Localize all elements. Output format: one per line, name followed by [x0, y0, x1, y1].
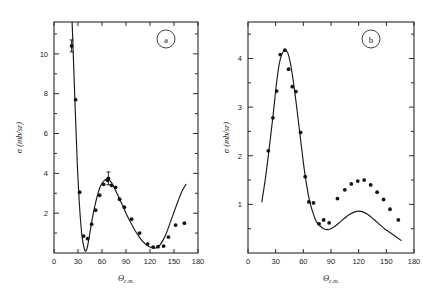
y-tick-label: 2 [238, 152, 242, 161]
x-tick-label: 90 [327, 257, 335, 266]
y-axis-label-b: σ (mb/sr) [221, 122, 231, 154]
data-point [303, 175, 307, 179]
data-point [138, 231, 142, 235]
data-point [369, 183, 373, 187]
x-tick-label: 60 [299, 257, 307, 266]
panel-b-label: b [369, 35, 374, 45]
y-tick-label: 8 [44, 89, 48, 98]
data-point [307, 200, 311, 204]
data-point [322, 218, 326, 222]
data-point [294, 90, 298, 94]
data-point [118, 197, 122, 201]
data-point [82, 234, 86, 238]
data-point [336, 197, 340, 201]
data-point [283, 48, 287, 52]
data-point [151, 245, 155, 249]
y-tick-label: 1 [238, 200, 242, 209]
data-point [349, 182, 353, 186]
x-axis-label-a: Θc.m. [118, 273, 134, 284]
data-point [327, 221, 331, 225]
panel-a-plot: 0306090120150180246810 a Θc.m. σ (mb/sr) [0, 0, 212, 293]
theory-curve-b [262, 50, 401, 241]
y-tick-label: 4 [238, 54, 242, 63]
data-point [299, 130, 303, 134]
y-axis-label-a: σ (mb/sr) [14, 122, 24, 154]
data-point [162, 244, 166, 248]
y-tick-label: 4 [44, 169, 48, 178]
data-point [278, 53, 282, 57]
x-axis-label-b: Θc.m. [323, 273, 339, 284]
x-tick-label: 30 [271, 257, 279, 266]
data-point [70, 44, 74, 48]
data-point [167, 235, 171, 239]
x-tick-label: 150 [168, 257, 181, 266]
figure-container: 0306090120150180246810 a Θc.m. σ (mb/sr)… [0, 0, 423, 293]
y-tick-label: 10 [40, 50, 48, 59]
data-point [107, 176, 111, 180]
x-tick-label: 180 [408, 257, 421, 266]
data-point [362, 178, 366, 182]
data-point [388, 207, 392, 211]
data-point [156, 245, 160, 249]
x-tick-label: 90 [122, 257, 130, 266]
data-points-b [266, 48, 400, 225]
data-point [356, 179, 360, 183]
panel-b-badge: b [362, 30, 380, 48]
x-tick-label: 150 [380, 257, 393, 266]
panel-a: 0306090120150180246810 a Θc.m. σ (mb/sr) [0, 0, 212, 293]
data-point [375, 190, 379, 194]
x-tick-label: 0 [52, 257, 56, 266]
data-point [396, 218, 400, 222]
data-point [287, 67, 291, 71]
data-point [123, 205, 127, 209]
data-point [86, 237, 90, 241]
data-point [114, 185, 118, 189]
data-point [312, 201, 316, 205]
panel-b-plot: 03060901201501801234 b Θc.m. σ (mb/sr) [211, 0, 423, 293]
data-point [90, 222, 94, 226]
theory-curve-a [70, 0, 186, 251]
y-tick-label: 3 [238, 103, 242, 112]
data-point [74, 98, 78, 102]
data-point [174, 223, 178, 227]
data-point [146, 242, 150, 246]
data-point [290, 85, 294, 89]
data-point [275, 89, 279, 93]
data-point [98, 193, 102, 197]
data-point [94, 208, 98, 212]
data-point [78, 190, 82, 194]
data-point [130, 217, 134, 221]
x-tick-label: 30 [74, 257, 82, 266]
data-point [110, 183, 114, 187]
data-point [271, 116, 275, 120]
x-tick-label: 120 [352, 257, 365, 266]
data-point [382, 198, 386, 202]
x-tick-label: 120 [144, 257, 157, 266]
x-tick-label: 180 [192, 257, 205, 266]
panel-a-badge: a [157, 30, 175, 48]
panel-b: 03060901201501801234 b Θc.m. σ (mb/sr) [211, 0, 423, 293]
y-tick-label: 6 [44, 129, 48, 138]
x-tick-label: 60 [98, 257, 106, 266]
data-point [266, 149, 270, 153]
x-tick-label: 0 [246, 257, 250, 266]
data-point [102, 182, 106, 186]
panel-a-label: a [164, 35, 168, 45]
data-point [183, 221, 187, 225]
data-point [343, 188, 347, 192]
y-tick-label: 2 [44, 209, 48, 218]
data-point [317, 222, 321, 226]
